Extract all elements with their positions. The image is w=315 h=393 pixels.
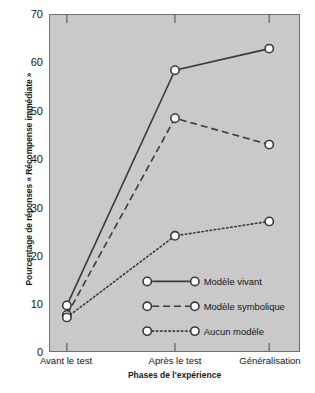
x-tick-label-apres: Après le test [149, 355, 202, 366]
data-point-marker [171, 66, 179, 74]
y-tick-label-70: 70 [4, 8, 43, 20]
plot-svg: Modèle vivantModèle symboliqueAucun modè… [50, 15, 299, 351]
data-point-marker [63, 301, 71, 309]
legend-label-2: Aucun modèle [204, 326, 264, 337]
legend-label-1: Modèle symbolique [204, 301, 285, 312]
plot-area: Modèle vivantModèle symboliqueAucun modè… [49, 14, 300, 352]
data-point-marker [265, 140, 273, 148]
series-line-0 [67, 49, 269, 306]
data-point-marker [63, 313, 71, 321]
x-tick-label-avant: Avant le test [40, 355, 92, 366]
chart-figure: Pourcentage de réponses « Récompense imm… [0, 0, 315, 393]
data-point-marker [171, 114, 179, 122]
legend-sample-marker-1 [143, 302, 151, 310]
legend-sample-marker-2 [143, 327, 151, 335]
legend-label-0: Modèle vivant [204, 276, 262, 287]
x-axis-title: Phases de l'expérience [49, 370, 300, 380]
legend-sample-marker-0 [143, 277, 151, 285]
data-point-marker [265, 217, 273, 225]
legend-sample-marker-2 [191, 327, 199, 335]
data-point-marker [171, 232, 179, 240]
data-point-marker [265, 44, 273, 52]
legend-layer: Modèle vivantModèle symboliqueAucun modè… [143, 276, 285, 337]
y-axis-title: Pourcentage de réponses « Récompense imm… [24, 29, 34, 329]
legend-sample-marker-0 [191, 277, 199, 285]
x-tick-label-generalisation: Généralisation [239, 355, 300, 366]
y-tick-label-0: 0 [4, 346, 43, 358]
legend-sample-marker-1 [191, 302, 199, 310]
